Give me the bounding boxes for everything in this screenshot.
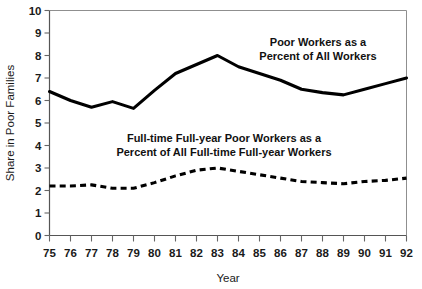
x-tick-label-84: 84 bbox=[232, 247, 245, 259]
x-tick-label-79: 79 bbox=[127, 247, 140, 259]
line-chart: 012345678910 757677787980818283848586878… bbox=[0, 0, 422, 289]
y-tick-label-3: 3 bbox=[35, 162, 41, 174]
x-tick-label-89: 89 bbox=[337, 247, 350, 259]
x-tick-label-92: 92 bbox=[400, 247, 413, 259]
y-tick-label-8: 8 bbox=[35, 50, 42, 62]
y-tick-label-1: 1 bbox=[35, 207, 42, 219]
x-tick-label-81: 81 bbox=[169, 247, 182, 259]
annotation-dashed-line-1: Full-time Full-year Poor Workers as a bbox=[127, 132, 322, 144]
y-tick-label-2: 2 bbox=[35, 185, 41, 197]
x-tick-label-91: 91 bbox=[379, 247, 392, 259]
y-tick-label-6: 6 bbox=[35, 95, 41, 107]
x-tick-label-75: 75 bbox=[43, 247, 56, 259]
y-tick-label-4: 4 bbox=[35, 140, 42, 152]
x-tick-label-77: 77 bbox=[85, 247, 98, 259]
annotation-solid-line-1: Poor Workers as a bbox=[270, 36, 367, 48]
y-axis-title: Share in Poor Families bbox=[4, 65, 16, 182]
x-tick-label-90: 90 bbox=[358, 247, 371, 259]
annotation-solid-line-2: Percent of All Workers bbox=[259, 50, 376, 62]
y-tick-label-9: 9 bbox=[35, 27, 41, 39]
y-tick-label-5: 5 bbox=[35, 117, 42, 129]
x-tick-label-80: 80 bbox=[148, 247, 161, 259]
y-tick-label-7: 7 bbox=[35, 72, 41, 84]
x-tick-label-83: 83 bbox=[211, 247, 224, 259]
x-tick-label-76: 76 bbox=[64, 247, 77, 259]
x-axis-title: Year bbox=[216, 272, 239, 284]
annotation-dashed-line-2: Percent of All Full-time Full-year Worke… bbox=[116, 146, 331, 158]
x-tick-label-85: 85 bbox=[253, 247, 266, 259]
x-tick-label-88: 88 bbox=[316, 247, 329, 259]
y-tick-label-0: 0 bbox=[35, 230, 41, 242]
x-tick-label-86: 86 bbox=[274, 247, 287, 259]
y-tick-label-10: 10 bbox=[29, 5, 42, 17]
x-tick-label-78: 78 bbox=[106, 247, 119, 259]
chart-figure: 012345678910 757677787980818283848586878… bbox=[0, 0, 422, 289]
x-tick-label-87: 87 bbox=[295, 247, 308, 259]
x-tick-label-82: 82 bbox=[190, 247, 203, 259]
